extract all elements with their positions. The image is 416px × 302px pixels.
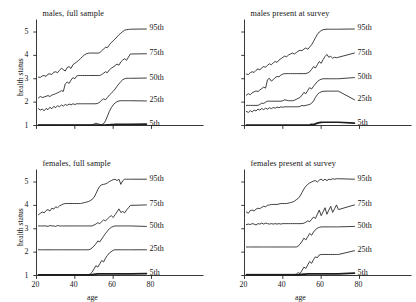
series-label-95th: 95th	[357, 174, 371, 183]
series-label-25th: 25th	[357, 245, 371, 254]
x-tick-label: 20	[240, 280, 248, 289]
panel-title-females-present-at-survey: females present at survey	[251, 159, 336, 168]
x-axis-label: age	[295, 293, 306, 302]
series-line-25th	[246, 251, 354, 275]
series-line-75th	[246, 205, 354, 225]
series-label-75th: 75th	[357, 199, 371, 208]
series-label-5th: 5th	[357, 268, 367, 277]
x-tick-label: 80	[355, 280, 363, 289]
x-tick-label: 60	[316, 280, 324, 289]
series-line-50th	[246, 226, 354, 247]
series-label-50th: 50th	[357, 221, 371, 230]
x-tick-label: 40	[278, 280, 286, 289]
